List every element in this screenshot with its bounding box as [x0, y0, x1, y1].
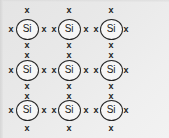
- valence-electron-mark: x: [65, 41, 73, 50]
- valence-electron-mark: x: [7, 25, 15, 34]
- si-atom-label: Si: [107, 24, 115, 34]
- valence-electron-mark: x: [50, 25, 58, 34]
- si-atom: Si: [58, 19, 81, 40]
- valence-electron-mark: x: [82, 106, 90, 115]
- si-atom-label: Si: [23, 24, 31, 34]
- valence-electron-mark: x: [7, 66, 15, 75]
- si-atom: Si: [100, 19, 123, 40]
- valence-electron-mark: x: [107, 51, 115, 60]
- valence-electron-mark: x: [92, 25, 100, 34]
- valence-electron-mark: x: [23, 124, 31, 133]
- si-atom: Si: [100, 100, 123, 121]
- valence-electron-mark: x: [7, 106, 15, 115]
- valence-electron-mark: x: [122, 66, 130, 75]
- si-atom-label: Si: [65, 65, 73, 75]
- si-atom-label: Si: [65, 24, 73, 34]
- valence-electron-mark: x: [23, 82, 31, 91]
- si-atom-label: Si: [107, 65, 115, 75]
- valence-electron-mark: x: [92, 106, 100, 115]
- valence-electron-mark: x: [122, 25, 130, 34]
- valence-electron-mark: x: [82, 25, 90, 34]
- valence-electron-mark: x: [50, 106, 58, 115]
- si-atom: Si: [16, 19, 39, 40]
- valence-electron-mark: x: [23, 6, 31, 15]
- si-atom-label: Si: [23, 105, 31, 115]
- valence-electron-mark: x: [65, 82, 73, 91]
- valence-electron-mark: x: [65, 92, 73, 101]
- valence-electron-mark: x: [50, 66, 58, 75]
- valence-electron-mark: x: [122, 106, 130, 115]
- valence-electron-mark: x: [65, 124, 73, 133]
- left-edge-shading: [0, 0, 3, 138]
- si-atom: Si: [100, 60, 123, 81]
- valence-electron-mark: x: [23, 41, 31, 50]
- valence-electron-mark: x: [23, 51, 31, 60]
- valence-electron-mark: x: [107, 124, 115, 133]
- si-atom-label: Si: [23, 65, 31, 75]
- si-atom: Si: [16, 60, 39, 81]
- valence-electron-mark: x: [23, 92, 31, 101]
- valence-electron-mark: x: [107, 41, 115, 50]
- valence-electron-mark: x: [40, 106, 48, 115]
- valence-electron-mark: x: [92, 66, 100, 75]
- si-atom-label: Si: [65, 105, 73, 115]
- silicon-lattice-diagram: SiSiSiSiSiSiSiSiSi xxxxxxxxxxxxxxxxxxxxx…: [0, 0, 169, 138]
- valence-electron-mark: x: [65, 51, 73, 60]
- valence-electron-mark: x: [40, 66, 48, 75]
- valence-electron-mark: x: [65, 6, 73, 15]
- si-atom-label: Si: [107, 105, 115, 115]
- valence-electron-mark: x: [107, 82, 115, 91]
- valence-electron-mark: x: [107, 6, 115, 15]
- valence-electron-mark: x: [107, 92, 115, 101]
- si-atom: Si: [16, 100, 39, 121]
- valence-electron-mark: x: [82, 66, 90, 75]
- valence-electron-mark: x: [40, 25, 48, 34]
- si-atom: Si: [58, 100, 81, 121]
- top-edge-shading: [0, 0, 169, 2]
- si-atom: Si: [58, 60, 81, 81]
